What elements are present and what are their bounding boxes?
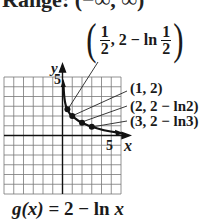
label-point-3: (3, 2 − ln3) — [130, 113, 199, 130]
leader-lines — [68, 62, 127, 127]
point-1 — [69, 113, 75, 119]
points — [64, 106, 94, 129]
caption-lhs: g(x) — [12, 198, 44, 219]
caption-var: x — [114, 198, 124, 219]
x-axis-label: x — [124, 137, 132, 155]
label-point-half: ( 12 , 2 − ln 12 ) — [84, 18, 186, 62]
function-caption: g(x) = 2 − ln x — [12, 198, 124, 220]
label-point-1: (1, 2) — [130, 80, 163, 97]
y-axis-arrow-icon — [60, 64, 66, 72]
curve-top-arrow-icon — [61, 79, 66, 87]
point-2 — [79, 120, 85, 126]
y-axis-label: y — [51, 60, 58, 77]
point-3 — [89, 124, 95, 130]
point-half — [64, 106, 70, 112]
caption-eq: = 2 − ln — [44, 198, 115, 219]
x-tick-5: 5 — [106, 138, 113, 154]
